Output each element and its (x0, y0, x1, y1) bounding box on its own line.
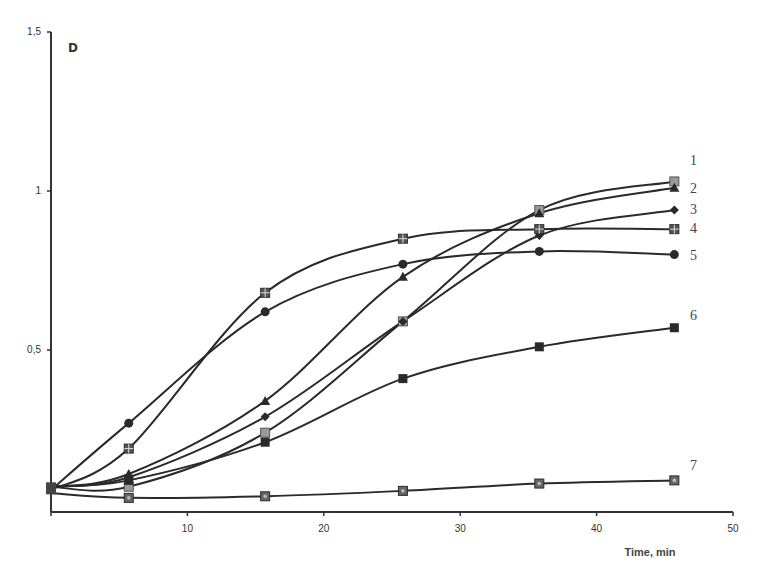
marker-square-filled-icon (124, 476, 133, 485)
marker-circle-icon (398, 260, 407, 269)
series-6-label: 6 (690, 308, 697, 323)
marker-circle-icon (261, 307, 270, 316)
series-4-label: 4 (690, 221, 697, 236)
line-chart: 0,511,51020304050Time, minD 1234567 (0, 0, 758, 574)
marker-square-filled-icon (670, 323, 679, 332)
marker-square-cross-icon (535, 225, 544, 234)
x-axis-title: Time, min (624, 546, 675, 558)
marker-square-cross-icon (124, 444, 133, 453)
marker-square-dot-icon (670, 476, 679, 485)
series-5-label: 5 (690, 248, 697, 263)
marker-square-filled-icon (398, 374, 407, 383)
marker-square-dot-icon (535, 479, 544, 488)
marker-circle-icon (124, 419, 133, 428)
marker-square-filled-icon (261, 438, 270, 447)
series-4-line (51, 228, 674, 489)
series-5-line (51, 251, 674, 490)
marker-diamond-icon (670, 206, 679, 215)
marker-square-filled-icon (535, 342, 544, 351)
marker-square-cross-icon (261, 288, 270, 297)
marker-square-cross-icon (398, 234, 407, 243)
y-tick-label: 1 (35, 185, 41, 196)
marker-square-dot-icon (124, 493, 133, 502)
series-1-label: 1 (690, 153, 697, 168)
start-cluster-marker-icon (46, 482, 56, 494)
series-2-label: 2 (690, 181, 697, 196)
x-tick-label: 50 (727, 523, 739, 534)
x-tick-label: 20 (318, 523, 330, 534)
x-tick-label: 40 (591, 523, 603, 534)
series-lines (51, 181, 674, 498)
marker-diamond-icon (261, 412, 270, 421)
series-labels: 1234567 (690, 153, 697, 473)
marker-square-cross-icon (670, 225, 679, 234)
x-tick-label: 30 (455, 523, 467, 534)
marker-square-dot-icon (398, 486, 407, 495)
marker-circle-icon (670, 250, 679, 259)
y-tick-label: 0,5 (27, 344, 41, 355)
series-3-label: 3 (690, 202, 697, 217)
x-tick-label: 10 (182, 523, 194, 534)
series-2-line (51, 188, 674, 487)
marker-square-dot-icon (261, 492, 270, 501)
series-6-line (51, 328, 674, 487)
marker-square-grey-icon (261, 428, 270, 437)
series-7-label: 7 (690, 458, 697, 473)
marker-triangle-icon (398, 272, 408, 281)
marker-circle-icon (535, 247, 544, 256)
y-tick-label: 1,5 (27, 26, 41, 37)
panel-label: D (68, 41, 78, 55)
